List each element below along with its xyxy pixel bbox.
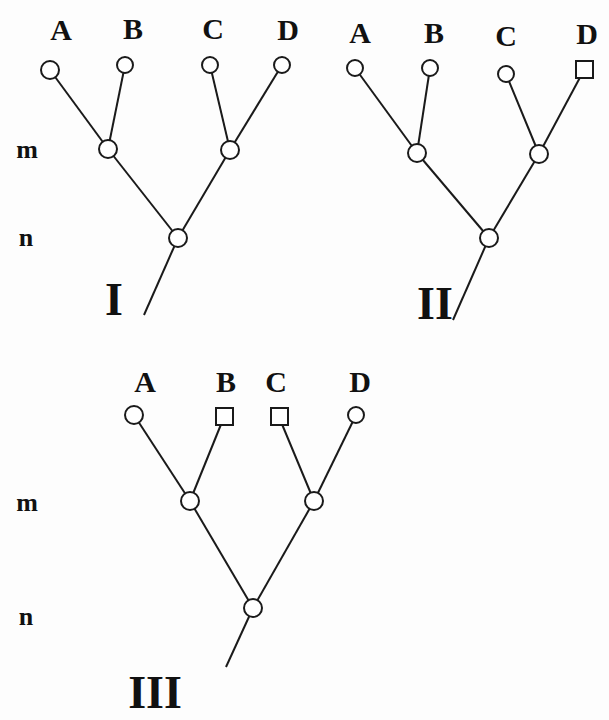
tree-III-leaf-A-circle: [125, 406, 143, 424]
tree-I-leaf-C-circle: [202, 57, 218, 73]
tree-III-label-C: C: [265, 367, 287, 397]
tree-II-edges: [355, 68, 584, 320]
tree-III-leaf-B-square: [216, 408, 233, 425]
tree-III-node-n: [244, 599, 262, 617]
tree-III-leaf-D-circle: [348, 407, 364, 423]
tree-I-leaf-D-circle: [274, 57, 290, 73]
tree-lines-layer: [0, 0, 609, 720]
tree-II-label-C: C: [495, 21, 517, 51]
tree-III-label-B: B: [216, 367, 236, 397]
tree-II-label-D: D: [576, 19, 598, 49]
phylogeny-figure: A B C D m n I A B C D II A B C D m n III: [0, 0, 609, 720]
tree-III-label-D: D: [349, 367, 371, 397]
tree-II-leaf-A-circle: [347, 60, 363, 76]
tree-I-label-C: C: [202, 14, 224, 44]
tree-I-label-A: A: [50, 15, 72, 45]
tree-I-edges: [50, 65, 282, 315]
tree-II-node-m-left: [408, 144, 426, 162]
tree-I-node-n: [169, 229, 187, 247]
tree-II-leaf-B-circle: [422, 60, 438, 76]
tree-I-leaf-A-circle: [41, 61, 59, 79]
tree-I-title: I: [105, 277, 123, 323]
tree-I-node-m-right: [221, 141, 239, 159]
tree-II-node-m-right: [530, 145, 548, 163]
tree-III-node-m-right: [305, 492, 323, 510]
tree-II-title: II: [417, 281, 453, 327]
tree-I-level-m: m: [16, 137, 38, 163]
tree-III-leaf-C-square: [271, 408, 288, 425]
tree-II-leaf-C-circle: [498, 66, 514, 82]
tree-III-level-m: m: [16, 490, 38, 516]
tree-III-node-m-left: [181, 492, 199, 510]
tree-I-label-B: B: [123, 14, 143, 44]
tree-II-leaf-D-square: [576, 61, 593, 78]
tree-I-leaf-B-circle: [117, 57, 133, 73]
tree-II-label-A: A: [349, 18, 371, 48]
tree-I-node-m-left: [99, 140, 117, 158]
tree-III-level-n: n: [19, 604, 33, 630]
tree-II-label-B: B: [424, 18, 444, 48]
tree-I-level-n: n: [19, 225, 33, 251]
tree-III-edges: [134, 415, 356, 667]
tree-I-label-D: D: [277, 15, 299, 45]
tree-III-label-A: A: [134, 367, 156, 397]
tree-II-node-n: [480, 229, 498, 247]
tree-III-title: III: [128, 670, 182, 716]
